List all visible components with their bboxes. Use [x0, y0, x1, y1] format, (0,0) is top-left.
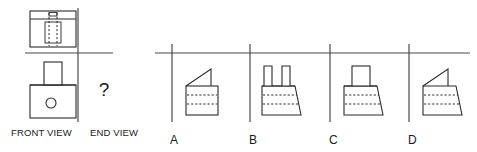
- front-view-label: FRONT VIEW: [11, 127, 72, 138]
- end-view-label: END VIEW: [90, 127, 138, 138]
- end-view-question-mark: ?: [99, 79, 110, 100]
- option-c-label[interactable]: C: [329, 133, 338, 147]
- option-b-label[interactable]: B: [249, 133, 257, 147]
- option-a-label[interactable]: A: [170, 133, 178, 147]
- option-d-label[interactable]: D: [408, 133, 417, 147]
- projection-question-sheet: ? FRONT VIEW END VIEW A B C D: [0, 0, 477, 152]
